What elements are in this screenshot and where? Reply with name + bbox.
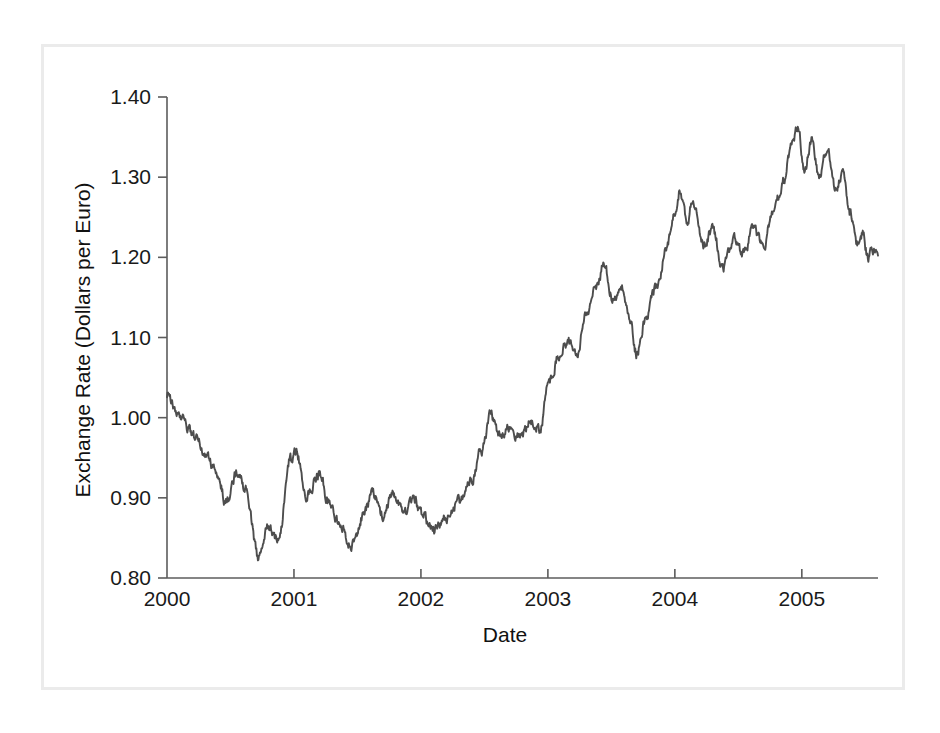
y-tick-label: 1.00 xyxy=(110,406,151,429)
x-axis-tick-labels: 200020012002200320042005 xyxy=(144,587,826,610)
y-tick-label: 1.40 xyxy=(110,85,151,108)
chart-plot-area: 0.800.901.001.101.201.301.40 20002001200… xyxy=(0,0,940,733)
exchange-rate-line-chart: 0.800.901.001.101.201.301.40 20002001200… xyxy=(0,0,940,733)
x-tick-label: 2002 xyxy=(398,587,445,610)
figure-root: 0.800.901.001.101.201.301.40 20002001200… xyxy=(0,0,940,733)
x-tick-label: 2003 xyxy=(525,587,572,610)
y-tick-label: 1.30 xyxy=(110,165,151,188)
y-axis-title: Exchange Rate (Dollars per Euro) xyxy=(71,182,94,497)
x-axis-ticks xyxy=(294,569,802,578)
y-tick-label: 0.90 xyxy=(110,486,151,509)
x-tick-label: 2005 xyxy=(778,587,825,610)
y-tick-label: 1.10 xyxy=(110,326,151,349)
x-tick-label: 2004 xyxy=(651,587,698,610)
x-axis-title: Date xyxy=(483,623,527,646)
series-line-usd-per-eur xyxy=(167,127,878,561)
y-tick-label: 1.20 xyxy=(110,245,151,268)
y-tick-label: 0.80 xyxy=(110,566,151,589)
x-tick-label: 2000 xyxy=(144,587,191,610)
x-tick-label: 2001 xyxy=(271,587,318,610)
y-axis-ticks xyxy=(158,97,167,578)
y-axis-tick-labels: 0.800.901.001.101.201.301.40 xyxy=(110,85,151,589)
